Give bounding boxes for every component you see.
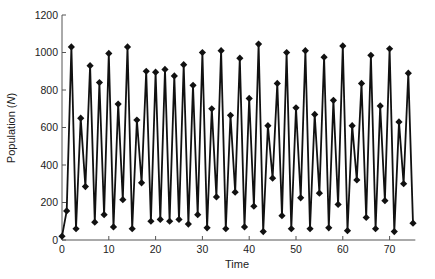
data-point-diamond [349,122,356,129]
data-point-diamond [105,50,112,57]
x-tick-label: 70 [384,243,396,255]
data-point-diamond [316,190,323,197]
data-point-diamond [405,70,412,77]
data-point-diamond [133,116,140,123]
data-point-diamond [409,220,416,227]
data-point-diamond [246,95,253,102]
data-point-diamond [115,100,122,107]
data-point-diamond [143,68,150,75]
data-point-diamond [344,227,351,234]
x-tick-label: 40 [243,243,255,255]
data-point-diamond [391,228,398,235]
data-point-diamond [372,225,379,232]
x-tick-label: 30 [197,243,209,255]
y-tick-label: 800 [40,84,58,96]
data-point-diamond [157,216,164,223]
data-point-diamond [358,80,365,87]
data-point-diamond [138,179,145,186]
data-point-diamond [335,201,342,208]
data-point-diamond [232,189,239,196]
x-tick-label: 0 [59,243,65,255]
x-tick-label: 20 [150,243,162,255]
data-point-diamond [353,176,360,183]
data-point-diamond [302,47,309,54]
data-point-diamond [395,118,402,125]
data-point-diamond [194,211,201,218]
data-point-diamond [311,111,318,118]
x-tick-label: 10 [103,243,115,255]
data-point-diamond [260,228,267,235]
data-point-diamond [86,62,93,69]
x-tick-label: 60 [337,243,349,255]
plot-area [58,40,416,239]
data-point-diamond [274,80,281,87]
data-point-diamond [152,69,159,76]
data-point-diamond [82,183,89,190]
data-point-diamond [381,197,388,204]
data-point-diamond [377,102,384,109]
data-point-diamond [110,223,117,230]
data-point-diamond [124,43,131,50]
data-point-diamond [96,79,103,86]
data-point-diamond [101,211,108,218]
data-point-diamond [236,55,243,62]
data-point-diamond [278,212,285,219]
x-axis-title: Time [225,258,249,270]
data-point-diamond [180,61,187,68]
data-point-diamond [330,97,337,104]
data-point-diamond [363,214,370,221]
data-point-diamond [218,47,225,54]
data-point-diamond [367,52,374,59]
data-point-diamond [166,218,173,225]
data-point-diamond [185,220,192,227]
data-point-diamond [213,193,220,200]
data-point-diamond [306,225,313,232]
data-point-diamond [208,105,215,112]
data-point-diamond [222,225,229,232]
data-point-diamond [255,40,262,47]
data-point-diamond [297,194,304,201]
y-tick-label: 1200 [35,9,59,21]
data-point-diamond [283,49,290,56]
data-point-diamond [58,233,65,240]
y-tick-label: 600 [40,121,58,133]
data-point-diamond [339,42,346,49]
data-point-diamond [129,225,136,232]
y-axis-title: Population (N) [5,93,17,163]
data-point-diamond [250,203,257,210]
series-line [62,44,413,236]
data-point-diamond [320,54,327,61]
data-point-diamond [227,112,234,119]
y-tick-label: 200 [40,196,58,208]
data-point-diamond [171,72,178,79]
data-point-diamond [161,66,168,73]
data-point-diamond [63,207,70,214]
x-tick-label: 50 [290,243,302,255]
data-point-diamond [288,225,295,232]
data-point-diamond [199,49,206,56]
population-chart: 020040060080010001200010203040506070 Tim… [0,0,435,279]
data-point-diamond [147,218,154,225]
data-point-diamond [72,225,79,232]
data-point-diamond [325,224,332,231]
data-point-diamond [269,175,276,182]
data-point-diamond [241,223,248,230]
data-point-diamond [77,115,84,122]
data-point-diamond [386,45,393,52]
data-point-diamond [119,196,126,203]
y-tick-label: 400 [40,159,58,171]
data-point-diamond [68,43,75,50]
y-tick-label: 1000 [35,46,59,58]
y-tick-label: 0 [52,234,58,246]
data-point-diamond [292,104,299,111]
data-point-diamond [189,82,196,89]
data-point-diamond [175,216,182,223]
data-point-diamond [203,224,210,231]
data-point-diamond [91,219,98,226]
data-point-diamond [400,180,407,187]
data-point-diamond [264,122,271,129]
